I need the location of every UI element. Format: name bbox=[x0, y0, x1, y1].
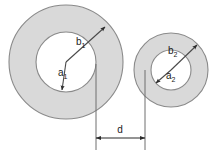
geometry-figure: a1 b1 a2 b2 d bbox=[0, 0, 218, 155]
right-annulus bbox=[0, 0, 218, 155]
label-d: d bbox=[117, 124, 123, 135]
label-b1-subscript: 1 bbox=[82, 42, 86, 49]
label-a1-subscript: 1 bbox=[64, 73, 68, 80]
figure-canvas: a1 b1 a2 b2 d bbox=[0, 0, 218, 155]
label-a2-subscript: 2 bbox=[172, 76, 176, 83]
right-annulus-ring-fill bbox=[0, 0, 218, 155]
label-b2-subscript: 2 bbox=[174, 51, 178, 58]
